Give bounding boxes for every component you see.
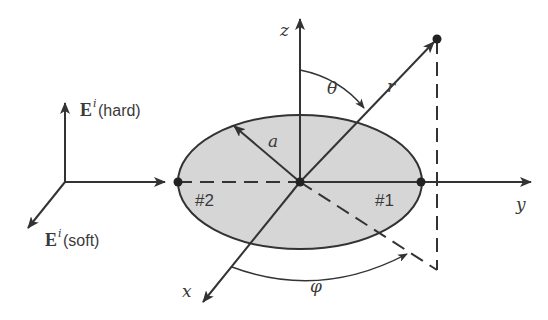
theta-label: θ <box>327 78 337 98</box>
incident-field-soft-label: E i (soft) <box>45 227 99 250</box>
observation-point-dot <box>433 35 442 44</box>
spheroid-scattering-diagram: z y x θ φ r a #2 #1 E i (hard) E i (soft… <box>0 0 548 320</box>
e-soft-superscript: i <box>58 227 62 240</box>
origin-dot <box>296 178 305 187</box>
r-label: r <box>387 76 396 96</box>
soft-polarization-arrow <box>28 182 65 228</box>
point-2-dot <box>174 178 183 187</box>
a-label: a <box>268 131 278 151</box>
point-1-dot <box>417 178 426 187</box>
point-1-label: #1 <box>375 191 394 210</box>
phi-label: φ <box>310 276 322 296</box>
e-hard-superscript: i <box>93 97 97 110</box>
y-axis-label: y <box>515 194 526 214</box>
x-axis-label: x <box>182 281 192 301</box>
e-hard-symbol: E <box>80 100 92 120</box>
e-hard-polarization: (hard) <box>98 102 141 119</box>
incident-field-hard-label: E i (hard) <box>80 97 141 120</box>
point-2-label: #2 <box>195 191 214 210</box>
incident-field-axes <box>28 103 165 228</box>
e-soft-symbol: E <box>45 230 57 250</box>
z-axis-label: z <box>279 20 290 40</box>
e-soft-polarization: (soft) <box>63 232 99 249</box>
